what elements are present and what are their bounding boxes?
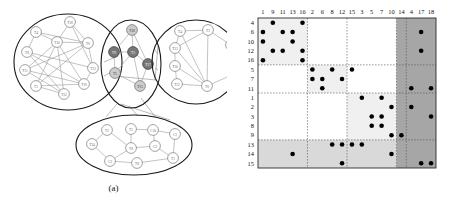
graph-node[interactable]: T5 xyxy=(126,124,137,135)
graph-node[interactable]: C2 xyxy=(150,141,161,152)
graph-node[interactable]: T10 xyxy=(52,37,63,48)
cluster-cluster-left: T18T4T10T6T8T13T11T16T1T12 xyxy=(14,14,122,110)
graph-node[interactable]: T16 xyxy=(79,79,90,90)
graph-node[interactable]: T2 xyxy=(203,25,214,36)
graph-node[interactable]: T11 xyxy=(20,65,31,76)
node-label: C3 xyxy=(108,160,112,164)
graph-node[interactable]: T8 xyxy=(132,158,143,169)
matrix-cell-dot xyxy=(350,67,355,72)
graph-node[interactable]: T6 xyxy=(83,38,94,49)
matrix-cell-dot xyxy=(280,49,285,54)
graph-node[interactable]: T1 xyxy=(31,81,42,92)
graph-node[interactable]: T18 xyxy=(65,17,76,28)
matrix-cell-dot xyxy=(300,20,305,25)
node-label: T3 xyxy=(131,51,135,55)
graph-node[interactable]: T6 xyxy=(202,81,213,92)
caption-a: (a) xyxy=(0,183,227,193)
node-label: C10 xyxy=(150,129,156,133)
node-label: T18 xyxy=(129,29,135,33)
row-label: 16 xyxy=(248,56,254,63)
column-label: 2 xyxy=(311,8,314,15)
matrix-cell-dot xyxy=(379,114,384,119)
row-label: 9 xyxy=(251,131,254,138)
column-label: 17 xyxy=(418,8,425,15)
matrix-cell-dot xyxy=(290,30,295,35)
graph-node[interactable]: T8 xyxy=(126,143,137,154)
matrix-cell-dot xyxy=(340,77,345,82)
matrix-cell-dot xyxy=(379,124,384,129)
node-label: T10 xyxy=(172,65,178,69)
graph-node[interactable]: T1 xyxy=(168,153,179,164)
column-label: 1 xyxy=(261,8,264,15)
node-label: T6 xyxy=(205,85,209,89)
graph-node[interactable]: C1 xyxy=(170,129,181,140)
cluster-edges xyxy=(175,30,227,86)
column-label: 12 xyxy=(339,8,345,15)
cluster-graph-svg: T18T4T10T6T8T13T11T16T1T12T18T9T3T17T5T1… xyxy=(0,0,227,180)
column-label: 6 xyxy=(321,8,324,15)
graph-node[interactable]: T15 xyxy=(135,81,146,92)
node-label: T17 xyxy=(145,63,151,67)
graph-node[interactable]: T2 xyxy=(102,125,113,136)
column-label: 5 xyxy=(370,8,373,15)
row-label: 3 xyxy=(251,113,254,120)
graph-node[interactable]: T18 xyxy=(127,25,138,36)
matrix-cell-dot xyxy=(300,58,305,63)
graph-node[interactable]: T14 xyxy=(87,139,98,150)
cluster-cluster-bottom: T2T5C10C1T14T8C2C3T8T1 xyxy=(76,115,192,175)
matrix-cell-dot xyxy=(409,86,414,91)
row-label: 13 xyxy=(248,141,254,148)
graph-node[interactable]: T5 xyxy=(110,68,121,79)
matrix-cell-dot xyxy=(389,105,394,110)
matrix-cell-dot xyxy=(271,20,276,25)
node-label: C2 xyxy=(153,145,157,149)
graph-node[interactable]: T9 xyxy=(109,47,120,58)
node-label: T15 xyxy=(137,85,143,89)
matrix-cell-dot xyxy=(399,133,404,138)
diagonal-block xyxy=(258,18,307,65)
graph-node[interactable]: T3 xyxy=(128,47,139,58)
graph-edge xyxy=(207,30,208,86)
graph-node[interactable]: T13 xyxy=(88,63,99,74)
node-label: C1 xyxy=(173,133,177,137)
row-label: 10 xyxy=(248,38,254,45)
matrix-cell-dot xyxy=(409,105,414,110)
graph-node[interactable]: T13 xyxy=(170,43,181,54)
graph-node[interactable]: C10 xyxy=(148,125,159,136)
row-label: 15 xyxy=(248,160,254,167)
matrix-cell-dot xyxy=(330,142,335,147)
inter-cluster-edge xyxy=(114,76,156,80)
column-label: 18 xyxy=(428,8,434,15)
matrix-row-labels: 46101216571112389131415 xyxy=(248,19,255,167)
matrix-cell-dot xyxy=(340,161,345,166)
graph-node[interactable]: T4 xyxy=(175,26,186,37)
matrix-cell-dot xyxy=(360,95,365,100)
node-label: T5 xyxy=(129,128,133,132)
matrix-cell-dot xyxy=(369,124,374,129)
graph-edge xyxy=(36,84,84,86)
node-label: T18 xyxy=(67,21,73,25)
graph-node[interactable]: T10 xyxy=(170,61,181,72)
matrix-cell-dot xyxy=(369,114,374,119)
column-label: 8 xyxy=(331,8,334,15)
matrix-cell-dot xyxy=(320,77,325,82)
node-label: T12 xyxy=(174,83,180,87)
node-label: T2 xyxy=(105,129,109,133)
graph-node[interactable]: C3 xyxy=(105,156,116,167)
panel-a-graph: T18T4T10T6T8T13T11T16T1T12T18T9T3T17T5T1… xyxy=(0,0,227,203)
matrix-cell-dot xyxy=(271,49,276,54)
node-label: T8 xyxy=(135,162,139,166)
column-label: 4 xyxy=(410,8,414,15)
matrix-cell-dot xyxy=(429,161,434,166)
row-label: 8 xyxy=(251,122,254,129)
column-label: 10 xyxy=(388,8,394,15)
graph-node[interactable]: T8 xyxy=(22,47,33,58)
graph-edge xyxy=(57,42,84,84)
graph-node[interactable]: T12 xyxy=(59,89,70,100)
graph-node[interactable]: T12 xyxy=(172,79,183,90)
graph-node[interactable]: T4 xyxy=(31,27,42,38)
node-label: T11 xyxy=(22,69,28,73)
matrix-cell-dot xyxy=(280,30,285,35)
node-label: T1 xyxy=(171,157,175,161)
row-label: 12 xyxy=(248,47,254,54)
